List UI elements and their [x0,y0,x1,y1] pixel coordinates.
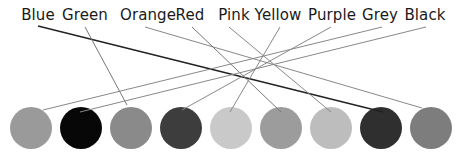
connection-line-black [80,27,426,112]
connection-line-pink [229,27,331,112]
connection-lines [0,0,463,154]
connection-line-green [85,27,127,105]
connection-line-orange [145,27,422,108]
color-matching-diagram: BlueGreenOrangeRedPinkYellowPurpleGreyBl… [0,0,463,154]
connection-line-red [192,27,281,112]
